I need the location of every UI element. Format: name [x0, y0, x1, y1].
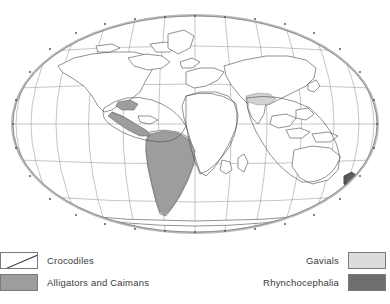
map-content: [0, 0, 390, 248]
world-map-svg: [0, 0, 390, 248]
legend-column-right: Gavials Rhynchocephalia: [200, 248, 390, 304]
legend-item-rhynchocephalia: Rhynchocephalia: [263, 273, 386, 291]
legend-label-crocodiles: Crocodiles: [47, 255, 94, 266]
legend-column-left: Crocodiles Alligators and Caimans: [0, 248, 200, 304]
legend-item-crocodiles: Crocodiles: [0, 251, 94, 269]
legend-label-gavials: Gavials: [306, 255, 339, 266]
legend-swatch-rhynchocephalia: [348, 274, 386, 291]
world-distribution-figure: Crocodiles Alligators and Caimans Gavial…: [0, 0, 390, 304]
map-legend: Crocodiles Alligators and Caimans Gavial…: [0, 248, 390, 304]
legend-label-alligators-caimans: Alligators and Caimans: [47, 277, 149, 288]
map-area: [0, 0, 390, 248]
legend-label-rhynchocephalia: Rhynchocephalia: [263, 277, 339, 288]
legend-item-alligators-caimans: Alligators and Caimans: [0, 273, 149, 291]
legend-item-gavials: Gavials: [306, 251, 386, 269]
legend-swatch-crocodiles: [0, 252, 38, 269]
legend-swatch-alligators-caimans: [0, 274, 38, 291]
legend-swatch-gavials: [348, 252, 386, 269]
